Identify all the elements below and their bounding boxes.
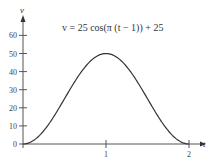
x-tick-label: 1 <box>104 150 108 159</box>
y-tick-label: 20 <box>9 104 17 113</box>
curve-line <box>23 54 189 145</box>
y-axis-label: v <box>20 5 24 15</box>
ticks: 010203040506012 <box>9 31 191 159</box>
y-tick-label: 40 <box>9 68 17 77</box>
equation-annotation: v = 25 cos(π (t − 1)) + 25 <box>62 22 163 34</box>
y-axis-arrow-icon <box>21 15 26 22</box>
y-tick-label: 0 <box>13 140 17 149</box>
y-tick-label: 50 <box>9 50 17 59</box>
chart: 010203040506012 v = 25 cos(π (t − 1)) + … <box>0 0 213 163</box>
y-tick-label: 60 <box>9 31 17 40</box>
x-tick-label: 2 <box>187 150 191 159</box>
y-tick-label: 30 <box>9 86 17 95</box>
axes <box>19 15 206 148</box>
y-tick-label: 10 <box>9 122 17 131</box>
